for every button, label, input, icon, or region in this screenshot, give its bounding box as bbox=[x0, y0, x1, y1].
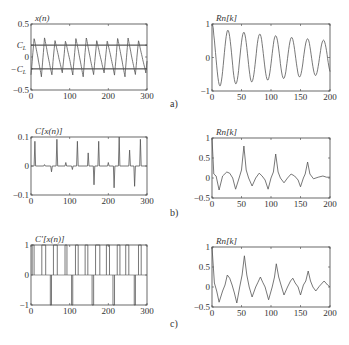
plot-title: Rn[k] bbox=[215, 127, 237, 137]
x-tick-label: 0 bbox=[210, 308, 215, 318]
x-tick-label: 50 bbox=[237, 92, 247, 102]
x-tick-label: 100 bbox=[264, 199, 278, 209]
plot-a-right: Rn[k]05010015020010−1 bbox=[200, 13, 337, 102]
row-label-c: c) bbox=[170, 318, 178, 329]
x-tick-label: 50 bbox=[237, 199, 247, 209]
y-tick-label: 0 bbox=[206, 282, 211, 292]
plot-b-right: Rn[k]05010015020010.50−0.5 bbox=[194, 127, 338, 209]
x-tick-label: 150 bbox=[294, 308, 308, 318]
row-label-b: b) bbox=[170, 207, 178, 218]
y-tick-label: 0.5 bbox=[18, 19, 30, 29]
y-tick-label: 1 bbox=[206, 242, 211, 252]
x-tick-label: 0 bbox=[29, 196, 34, 206]
x-tick-label: 0 bbox=[29, 91, 34, 101]
x-tick-label: 0 bbox=[29, 306, 34, 316]
x-tick-label: 300 bbox=[140, 306, 154, 316]
x-tick-label: 200 bbox=[102, 306, 116, 316]
x-tick-label: 200 bbox=[102, 196, 116, 206]
x-tick-label: 0 bbox=[210, 199, 215, 209]
data-line bbox=[212, 24, 330, 86]
y-tick-label: −0.1 bbox=[13, 190, 29, 200]
plot-b-left: C[x(n)]01002003000.10−0.1 bbox=[13, 126, 155, 206]
plot-c-right: Rn[k]05010015020010.50−0.5 bbox=[194, 236, 338, 318]
y-tick-label: 0 bbox=[206, 53, 211, 63]
x-tick-label: 200 bbox=[323, 199, 337, 209]
plot-c-left: C'[x(n)]010020030010−1 bbox=[19, 234, 154, 316]
data-line bbox=[212, 138, 330, 190]
figure-canvas: x(n)01002003000.5CL0−CL−0.5Rn[k]05010015… bbox=[0, 0, 349, 345]
plot-frame bbox=[212, 24, 330, 91]
plot-title: Rn[k] bbox=[215, 236, 237, 246]
x-tick-label: 200 bbox=[102, 91, 116, 101]
x-tick-label: 0 bbox=[210, 92, 215, 102]
y-tick-label: 0 bbox=[25, 270, 30, 280]
x-tick-label: 150 bbox=[294, 199, 308, 209]
y-tick-label: −1 bbox=[200, 86, 210, 96]
plot-a-left: x(n)01002003000.5CL0−CL−0.5 bbox=[11, 13, 155, 101]
x-tick-label: 100 bbox=[63, 306, 77, 316]
y-tick-label: 1 bbox=[206, 19, 211, 29]
plot-frame bbox=[212, 138, 330, 198]
y-tick-label: 0.5 bbox=[199, 153, 211, 163]
y-tick-label: 1 bbox=[25, 240, 30, 250]
y-tick-label: 0 bbox=[206, 173, 211, 183]
y-tick-label: −0.5 bbox=[13, 85, 30, 95]
x-tick-label: 50 bbox=[237, 308, 247, 318]
y-tick-label: −1 bbox=[19, 300, 29, 310]
x-tick-label: 100 bbox=[63, 196, 77, 206]
x-tick-label: 100 bbox=[264, 308, 278, 318]
x-tick-label: 300 bbox=[140, 196, 154, 206]
data-line bbox=[31, 38, 147, 77]
y-tick-label: 0.5 bbox=[199, 262, 211, 272]
x-tick-label: 150 bbox=[294, 92, 308, 102]
y-tick-label: 0.1 bbox=[18, 132, 29, 142]
x-tick-label: 200 bbox=[323, 308, 337, 318]
plot-title: C'[x(n)] bbox=[35, 234, 65, 244]
row-label-a: a) bbox=[170, 98, 178, 109]
plot-title: Rn[k] bbox=[215, 13, 237, 23]
y-tick-label: CL bbox=[17, 40, 27, 51]
plot-title: x(n) bbox=[34, 13, 50, 23]
data-line bbox=[31, 137, 147, 188]
data-line bbox=[212, 247, 330, 303]
y-tick-label: −CL bbox=[11, 64, 27, 75]
y-tick-label: 1 bbox=[206, 133, 211, 143]
plot-title: C[x(n)] bbox=[35, 126, 63, 136]
x-tick-label: 200 bbox=[323, 92, 337, 102]
figure: x(n)01002003000.5CL0−CL−0.5Rn[k]05010015… bbox=[0, 0, 349, 345]
x-tick-label: 300 bbox=[140, 91, 154, 101]
plot-frame bbox=[212, 247, 330, 307]
x-tick-label: 100 bbox=[264, 92, 278, 102]
y-tick-label: −0.5 bbox=[194, 193, 211, 203]
x-tick-label: 100 bbox=[63, 91, 77, 101]
y-tick-label: 0 bbox=[25, 161, 30, 171]
y-tick-label: 0 bbox=[25, 52, 30, 62]
y-tick-label: −0.5 bbox=[194, 302, 211, 312]
